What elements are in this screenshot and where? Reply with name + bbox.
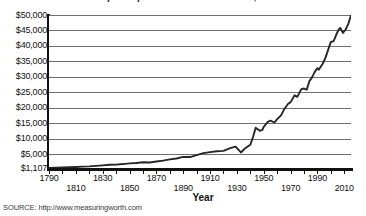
- x-axis-tick-label: 1830: [88, 173, 118, 183]
- y-axis-tick-label: $10,000: [1, 134, 47, 143]
- y-axis-tick-label: $35,000: [1, 57, 47, 66]
- chart-title-cropped: Real GDP per capita in the United States…: [0, 0, 366, 7]
- y-axis-tick-label: $5,000: [1, 150, 47, 159]
- chart-title: Real GDP per capita in the United States…: [58, 0, 308, 2]
- x-axis-tick-label: 1990: [302, 173, 332, 183]
- x-axis-tick-label: 1870: [141, 173, 171, 183]
- y-axis-tick-label: $30,000: [1, 72, 47, 81]
- data-line-series: [49, 15, 351, 168]
- plot-area: [49, 15, 351, 168]
- x-axis-tick-label: 1950: [249, 173, 279, 183]
- y-axis-tick-label: $20,000: [1, 103, 47, 112]
- y-axis-tick-label: $15,000: [1, 119, 47, 128]
- x-axis-tick-label: 1790: [34, 173, 64, 183]
- x-axis-tick-label: 1910: [195, 173, 225, 183]
- chart-figure: Real GDP per capita in the United States…: [0, 0, 366, 216]
- y-axis-tick-label: $45,000: [1, 26, 47, 35]
- y-axis-tick-label: $25,000: [1, 88, 47, 97]
- y-axis-tick-label: $50,000: [1, 11, 47, 20]
- y-axis-tick-label: $40,000: [1, 41, 47, 50]
- x-axis-title: Year: [0, 192, 366, 203]
- x-axis-title-text: Year: [192, 192, 213, 203]
- source-note: SOURCE: http://www.measuringworth.com: [3, 203, 142, 212]
- y-axis-tick-label: $1,107: [1, 164, 47, 173]
